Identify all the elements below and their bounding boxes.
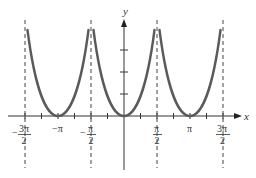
tick-label-neg-3pi-2-den: 2: [22, 135, 27, 146]
tick-label-pi-2-num: π: [154, 123, 159, 134]
chart-canvas: x y − 3π 2 −π − π 2 π 2 π 3π 2: [0, 0, 256, 178]
tick-label-pi-2-den: 2: [155, 135, 160, 146]
curve-branch-left: [28, 30, 89, 116]
curve-branch-right: [160, 30, 221, 116]
tick-label-neg-pi: −π: [52, 123, 63, 134]
tick-label-neg-pi-2-den: 2: [89, 135, 94, 146]
tick-label-pi: π: [187, 123, 192, 134]
tick-label-neg-pi-2-sign: −: [80, 127, 86, 138]
x-axis-arrow-icon: [234, 113, 242, 119]
x-axis-label: x: [243, 110, 249, 122]
tick-label-neg-pi-2-num: π: [88, 123, 93, 134]
y-axis-label: y: [122, 5, 128, 17]
tick-label-neg-3pi-2-num: 3π: [19, 123, 29, 134]
tick-label-3pi-2-num: 3π: [217, 123, 227, 134]
tick-label-3pi-2-den: 2: [220, 135, 225, 146]
tick-labels: − 3π 2 −π − π 2 π 2 π 3π 2: [12, 123, 230, 146]
tick-label-neg-3pi-2-sign: −: [12, 127, 18, 138]
y-axis-arrow-icon: [121, 19, 127, 27]
